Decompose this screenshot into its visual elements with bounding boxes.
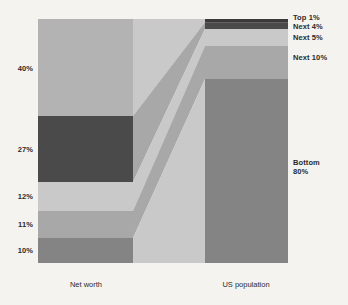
segment-net-worth-next-4 [38,116,133,182]
left-label-next-5: 12% [0,192,33,201]
right-label-next-4: Next 4% [293,22,323,31]
segment-us-population-top-1 [205,19,288,22]
segment-net-worth-next-5 [38,182,133,211]
segment-us-population-next-10 [205,46,288,79]
bar-net-worth [38,19,133,263]
left-label-bottom-80: 10% [0,246,33,255]
segment-us-population-next-4 [205,22,288,29]
segment-us-population-bottom-80 [205,79,288,263]
right-label-bottom-80-line2: 80% [293,167,308,177]
right-label-top-1: Top 1% [293,13,320,22]
slope-chart: 40% 27% 12% 11% 10% Top 1% Next 4% Next … [0,0,348,305]
bar-us-population [205,19,288,263]
right-label-next-5: Next 5% [293,33,323,42]
left-label-next-10: 11% [0,220,33,229]
left-label-top-1: 40% [0,64,33,73]
axis-label-us-population: US population [200,280,292,289]
axis-label-net-worth: Net worth [40,280,132,289]
segment-net-worth-next-10 [38,211,133,238]
segment-net-worth-top-1 [38,19,133,116]
left-label-next-4: 27% [0,145,33,154]
chart-canvas [0,0,348,305]
segment-net-worth-bottom-80 [38,238,133,263]
segment-us-population-next-5 [205,29,288,46]
right-label-next-10: Next 10% [293,53,327,62]
